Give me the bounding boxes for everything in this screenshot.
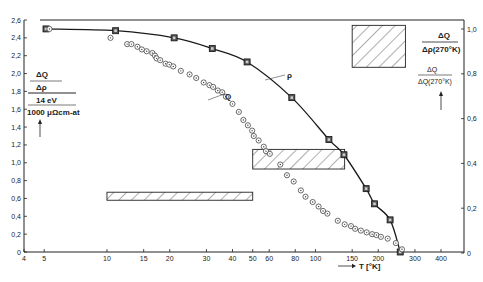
left-label-den: Δρ [36, 83, 47, 92]
x-tick-label: 150 [346, 255, 358, 262]
left-y-tick-label: 0,8 [11, 177, 21, 184]
x-tick-label: 4 [22, 255, 26, 262]
left-y-tick-label: 1,8 [11, 88, 21, 95]
left-y-tick-label: 1,0 [11, 159, 21, 166]
left-y-tick-label: 2,0 [11, 70, 21, 77]
series-rho_ratio [43, 26, 403, 255]
data-series [43, 26, 405, 255]
svg-text:Q: Q [225, 92, 231, 101]
left-y-tick-label: 0 [17, 249, 21, 256]
x-tick-label: 15 [140, 255, 148, 262]
right-label-top-num: ΔQ [438, 31, 450, 40]
left-y-tick-label: 2,2 [11, 52, 21, 59]
x-axis-label: T [°K] [338, 262, 381, 271]
right-y-tick-label: 0,2 [467, 205, 477, 212]
left-y-tick-label: 0,6 [11, 195, 21, 202]
x-tick-label: 400 [435, 255, 447, 262]
left-y-tick-label: 1,2 [11, 141, 21, 148]
right-y-axis-label: ΔQ Δρ(270°K) ΔQ ΔQ(270°K) [418, 31, 461, 110]
chart-canvas: 451015203040506080100150200300400 00,20,… [0, 0, 483, 282]
right-y-tick-label: 0,8 [467, 70, 477, 77]
x-tick-label: 30 [203, 255, 211, 262]
hatched-region [107, 192, 253, 200]
left-y-tick-label: 2,6 [11, 17, 21, 24]
right-label-top-den: Δρ(270°K) [422, 45, 461, 54]
x-tick-label: 80 [291, 255, 299, 262]
left-label-factor-num: 14 eV [36, 96, 58, 105]
left-y-tick-label: 0,4 [11, 213, 21, 220]
left-y-tick-label: 0,2 [11, 231, 21, 238]
x-tick-label: 20 [166, 255, 174, 262]
x-tick-label: 200 [372, 255, 384, 262]
left-y-axis-label: ΔQ Δρ 14 eV 1000 μΩcm-at [27, 70, 80, 137]
left-label-factor-den: 1000 μΩcm-at [27, 108, 80, 117]
series-Q_ratio [47, 26, 405, 252]
left-y-tick-label: 1,4 [11, 124, 21, 131]
x-axis-ticks: 451015203040506080100150200300400 [22, 249, 447, 262]
x-tick-label: 5 [42, 255, 46, 262]
x-tick-label: 10 [103, 255, 111, 262]
right-y-axis-ticks: 00,20,40,60,81,0 [461, 26, 477, 257]
right-y-tick-label: 0 [467, 250, 471, 257]
left-y-tick-label: 1,6 [11, 106, 21, 113]
x-tick-label: 40 [229, 255, 237, 262]
right-label-bottom-den: ΔQ(270°K) [418, 78, 452, 86]
curve-label-rho: ρ [265, 71, 292, 80]
right-y-tick-label: 1,0 [467, 26, 477, 33]
right-y-tick-label: 0,4 [467, 160, 477, 167]
left-y-axis-ticks: 00,20,40,60,81,01,21,41,61,82,02,22,42,6 [11, 17, 27, 256]
x-tick-label: 50 [249, 255, 257, 262]
left-y-tick-label: 2,4 [11, 34, 21, 41]
x-tick-label: 60 [265, 255, 273, 262]
right-y-tick-label: 0,6 [467, 115, 477, 122]
x-tick-label: 100 [310, 255, 322, 262]
x-tick-label: 300 [409, 255, 421, 262]
svg-text:ρ: ρ [287, 71, 292, 80]
x-axis-title: T [°K] [359, 262, 381, 271]
hatched-region [352, 25, 405, 67]
left-label-num: ΔQ [36, 70, 48, 79]
right-label-bottom-num: ΔQ [427, 66, 438, 74]
